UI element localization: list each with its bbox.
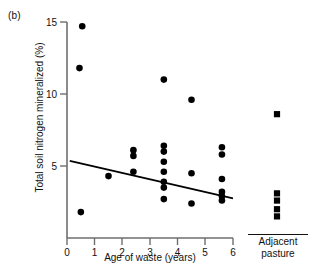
data-point xyxy=(161,158,168,165)
data-point xyxy=(188,200,195,207)
data-point xyxy=(161,196,168,203)
y-tick-label-10: 10 xyxy=(46,89,58,100)
adjacent-pasture-label: Adjacent pasture xyxy=(244,234,312,259)
data-point xyxy=(219,151,226,158)
y-tick-label-15: 15 xyxy=(46,17,58,28)
data-point xyxy=(130,147,137,154)
data-point xyxy=(161,76,168,83)
pasture-data-points xyxy=(274,111,280,219)
data-point xyxy=(161,179,168,186)
data-point xyxy=(219,144,226,151)
pasture-data-point xyxy=(274,206,280,212)
data-point xyxy=(130,168,137,175)
data-point xyxy=(105,173,112,180)
data-point xyxy=(130,153,137,160)
data-point xyxy=(78,209,85,216)
data-point xyxy=(76,65,83,72)
pasture-data-point xyxy=(274,190,280,196)
data-point xyxy=(161,184,168,191)
data-point xyxy=(219,176,226,183)
figure-panel-b: (b) Total soil nitrogen mineralized (%) … xyxy=(0,0,315,278)
data-point xyxy=(188,96,195,103)
pasture-label-line2: pasture xyxy=(261,248,294,259)
data-point xyxy=(188,170,195,177)
data-point xyxy=(219,197,226,204)
data-point xyxy=(161,168,168,175)
data-point xyxy=(161,143,168,150)
regression-line xyxy=(70,161,233,198)
data-point xyxy=(161,148,168,155)
x-axis-label: Age of waste (years) xyxy=(67,252,233,263)
pasture-rule xyxy=(248,234,308,235)
pasture-data-point xyxy=(274,111,280,117)
data-point xyxy=(79,23,86,30)
y-tick-label-5: 5 xyxy=(51,161,57,172)
waste-data-points xyxy=(76,23,225,215)
pasture-data-point xyxy=(274,197,280,203)
pasture-label-line1: Adjacent xyxy=(259,236,298,247)
pasture-data-point xyxy=(274,213,280,219)
